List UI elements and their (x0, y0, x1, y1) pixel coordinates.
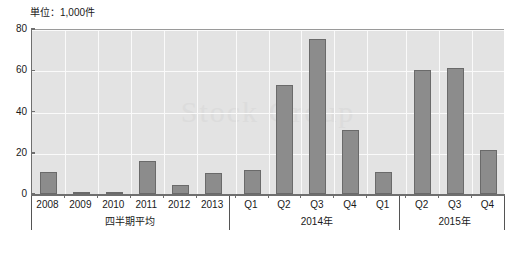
group-label: 四半期平均 (31, 216, 229, 228)
group-label: 2015年 (405, 216, 504, 228)
group-separator (504, 196, 505, 230)
group-separator (31, 196, 32, 230)
group-separator (229, 196, 230, 230)
bar-chart: 単位：1,000件 Stock Group 020406080 20082009… (0, 0, 509, 259)
group-label: 2014年 (235, 216, 400, 228)
group-separator (399, 196, 400, 230)
group-labels: 四半期平均2014年2015年 (0, 0, 509, 259)
